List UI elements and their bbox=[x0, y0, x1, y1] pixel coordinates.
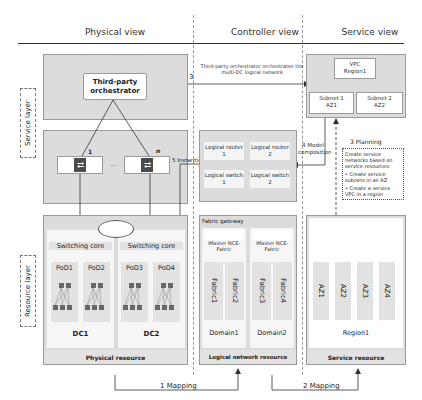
fabric4[interactable]: Fabric4 bbox=[273, 262, 292, 320]
fabric4-label: Fabric4 bbox=[279, 278, 287, 303]
logical-router-2[interactable]: Logical router 2 bbox=[250, 142, 290, 160]
imaster-domain2: iMaster NCE-Fabric bbox=[250, 240, 294, 252]
fabric2-label: Fabric2 bbox=[231, 278, 239, 303]
az1-label: AZ1 bbox=[317, 284, 325, 298]
planning-bullet-1-text: Create service subnets in an AZ bbox=[345, 171, 387, 183]
step4-label: 4 Model composition bbox=[298, 142, 328, 155]
fabric1[interactable]: Fabric1 bbox=[204, 262, 223, 320]
logical-router-1[interactable]: Logical router 1 bbox=[204, 142, 244, 160]
mapping-1-label: 1 Mapping bbox=[160, 382, 197, 390]
az2-label: AZ2 bbox=[339, 284, 347, 298]
logical-network-resource-footer: Logical network resource bbox=[200, 350, 296, 364]
fabric3[interactable]: Fabric3 bbox=[252, 262, 271, 320]
planning-bullet-1: • Create service subnets in an AZ bbox=[345, 171, 401, 183]
planning-bullet-2: • Create a service VPC in a region bbox=[345, 185, 401, 197]
physical-resource-footer: Physical resource bbox=[44, 350, 187, 364]
subnet-2[interactable]: Subnet 2 AZ2 bbox=[356, 92, 403, 114]
planning-title: 3 Planning bbox=[350, 138, 382, 145]
az4-label: AZ4 bbox=[383, 284, 391, 298]
fabric3-label: Fabric3 bbox=[258, 278, 266, 303]
fabric-gateway-label: Fabric gateway bbox=[202, 218, 244, 224]
az1[interactable]: AZ1 bbox=[313, 262, 329, 320]
domain2-label: Domain2 bbox=[250, 329, 294, 337]
az4[interactable]: AZ4 bbox=[379, 262, 395, 320]
logical-switch-1[interactable]: Logical switch 1 bbox=[204, 170, 244, 188]
subnet-1[interactable]: Subnet 1 AZ1 bbox=[309, 92, 354, 114]
az2[interactable]: AZ2 bbox=[335, 262, 351, 320]
az3-label: AZ3 bbox=[361, 284, 369, 298]
dc1-label: DC1 bbox=[47, 330, 114, 338]
imaster-domain1: iMaster NCE-Fabric bbox=[202, 240, 246, 252]
fabric2[interactable]: Fabric2 bbox=[225, 262, 244, 320]
fabric-gateway-1 bbox=[204, 230, 244, 240]
vpc-region1[interactable]: VPC Region1 bbox=[334, 58, 376, 79]
planning-bullet-2-text: Create a service VPC in a region bbox=[345, 185, 390, 197]
fabric1-label: Fabric1 bbox=[210, 278, 218, 303]
domain1-label: Domain1 bbox=[202, 329, 246, 337]
logical-network-panel bbox=[199, 130, 297, 202]
mapping-2-label: 2 Mapping bbox=[303, 382, 340, 390]
planning-intro: Create service networks based on service… bbox=[345, 151, 401, 169]
service-resource-footer: Service resource bbox=[307, 350, 405, 364]
logical-switch-2[interactable]: Logical switch 2 bbox=[250, 170, 290, 188]
az3[interactable]: AZ3 bbox=[357, 262, 373, 320]
region1-label: Region1 bbox=[309, 329, 403, 337]
planning-box: Create service networks based on service… bbox=[342, 148, 404, 200]
fabric-gateway-2 bbox=[252, 230, 292, 240]
dc2-label: DC2 bbox=[118, 330, 185, 338]
